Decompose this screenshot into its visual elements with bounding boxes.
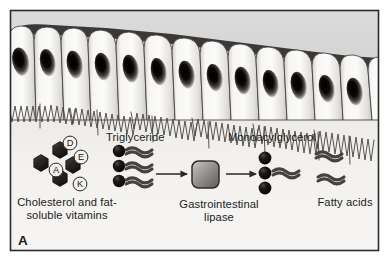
label-gastrointestinal-lipase: Gastrointestinal lipase [160, 198, 278, 223]
triglyceride-tails [126, 148, 152, 187]
vitamin-e-letter: E [74, 150, 88, 164]
vitamin-k-letter: K [73, 177, 87, 191]
triglyceride-head [113, 160, 125, 172]
label-triglyceride: Triglyceride [106, 131, 192, 144]
vitamin-a-letter: A [49, 163, 63, 177]
label-monoacylglycerol: Monoacylglycerol [228, 131, 342, 144]
monoacylglycerol-head [259, 167, 272, 180]
monoacylglycerol-head [259, 182, 272, 195]
monoacylglycerol-head [259, 152, 272, 165]
label-fatty-acids: Fatty acids [304, 196, 386, 209]
gastrointestinal-lipase-shape [192, 161, 219, 188]
label-cholesterol-and-fat-soluble-vitamins: Cholesterol and fat- soluble vitamins [7, 196, 127, 221]
vitamin-d-letter: D [63, 136, 77, 150]
panel-letter-a: A [18, 233, 28, 248]
triglyceride-head [113, 145, 125, 157]
figure-panel-a: Triglyceride Monoacylglycerol Cholestero… [0, 0, 389, 272]
triglyceride-head [113, 175, 125, 187]
